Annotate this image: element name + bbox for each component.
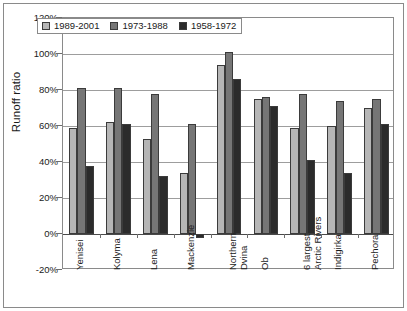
x-axis-category-label: 6 largestArctic Rivers <box>302 217 323 270</box>
x-axis-tick-mark <box>284 234 285 238</box>
bar <box>262 97 270 234</box>
bar <box>69 128 77 234</box>
x-axis-tick-mark <box>358 234 359 238</box>
x-axis-tick-mark <box>137 234 138 238</box>
medium-gray-swatch <box>110 22 118 30</box>
y-axis-tick-mark <box>56 125 62 126</box>
x-axis-label-line: Indigirka <box>332 234 343 270</box>
bar <box>381 124 389 234</box>
bar <box>364 108 372 234</box>
x-axis-tick-mark <box>174 234 175 238</box>
chart-container: Runoff ratio 120%100%80%60%40%20%0%-20% … <box>0 0 407 311</box>
plot-area <box>62 17 394 269</box>
x-axis-category-label: Yenisei <box>75 240 86 270</box>
x-axis-category-label: Kolyma <box>112 238 123 270</box>
bar <box>290 128 298 234</box>
y-axis-tick-label: 80% <box>22 85 58 94</box>
bar <box>270 106 278 234</box>
x-axis-label-line: Ob <box>259 257 270 270</box>
x-axis-category-label: Pechora <box>370 235 381 270</box>
x-axis-label-line: Mackenzie <box>185 225 196 270</box>
y-axis-tick-mark <box>56 197 62 198</box>
y-axis-tick-label: -20% <box>22 265 58 274</box>
x-axis-label-line: Arctic Rivers <box>313 217 324 270</box>
x-axis-label-line: Lena <box>148 249 159 270</box>
x-axis-label-line: Pechora <box>369 235 380 270</box>
y-axis-tick-label: 40% <box>22 157 58 166</box>
bar <box>344 173 352 234</box>
x-axis-category-label: NorthernDvina <box>228 233 249 270</box>
x-axis-label-line: Dvina <box>239 233 250 270</box>
x-axis-label-line: 6 largest <box>301 234 312 270</box>
bar <box>143 139 151 234</box>
y-axis-tick-mark <box>56 161 62 162</box>
x-axis-label-line: Yenisei <box>74 240 85 270</box>
y-axis-title: Runoff ratio <box>10 42 22 162</box>
legend-label: 1973-1988 <box>122 21 167 31</box>
bar <box>299 94 307 234</box>
bar <box>77 88 85 234</box>
legend-item: 1958-1972 <box>179 21 236 31</box>
x-axis-label-line: Kolyma <box>111 238 122 270</box>
bar <box>122 124 130 234</box>
y-axis-tick-mark <box>56 53 62 54</box>
y-axis-tick-label: 100% <box>22 49 58 58</box>
y-axis-tick-label: 20% <box>22 193 58 202</box>
y-axis-tick-label: 0% <box>22 229 58 238</box>
y-axis-tick-mark <box>56 89 62 90</box>
x-axis-category-label: Lena <box>149 249 160 270</box>
bar <box>106 122 114 234</box>
x-axis-tick-mark <box>211 234 212 238</box>
legend-item: 1973-1988 <box>110 21 167 31</box>
bar <box>114 88 122 234</box>
x-axis-category-label: Mackenzie <box>186 225 197 270</box>
y-axis-tick-mark <box>56 17 62 18</box>
bar <box>159 176 167 234</box>
x-axis-category-label: Indigirka <box>333 234 344 270</box>
bar <box>86 166 94 234</box>
x-axis-tick-mark <box>100 234 101 238</box>
chart-legend: 1989-20011973-19881958-1972 <box>37 18 242 34</box>
bar <box>196 234 204 238</box>
dark-gray-swatch <box>179 22 187 30</box>
y-axis-tick-labels: 120%100%80%60%40%20%0%-20% <box>22 17 58 269</box>
x-axis-category-label: Ob <box>260 257 271 270</box>
bar <box>225 52 233 234</box>
legend-label: 1989-2001 <box>54 21 99 31</box>
legend-label: 1958-1972 <box>191 21 236 31</box>
x-axis-category-labels: YeniseiKolymaLenaMackenzieNorthernDvinaO… <box>62 269 394 311</box>
bar <box>372 99 380 234</box>
y-axis-tick-mark <box>56 233 62 234</box>
bar <box>254 99 262 234</box>
y-axis-tick-mark <box>56 269 62 270</box>
bar <box>327 126 335 234</box>
bar <box>188 124 196 234</box>
x-axis-label-line: Northern <box>227 233 238 270</box>
bar <box>151 94 159 234</box>
bar <box>336 101 344 234</box>
light-gray-swatch <box>42 22 50 30</box>
bar <box>233 79 241 234</box>
legend-item: 1989-2001 <box>42 21 99 31</box>
bar <box>217 65 225 234</box>
y-axis-tick-label: 60% <box>22 121 58 130</box>
